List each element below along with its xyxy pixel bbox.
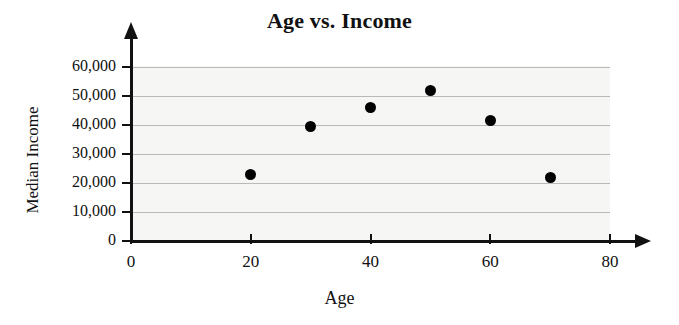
scatter-chart-figure: Age vs. Income Median Income Age 010,000… (0, 0, 679, 325)
x-axis-tick-label: 40 (341, 252, 401, 272)
x-axis-line (131, 240, 637, 243)
chart-title: Age vs. Income (0, 8, 679, 34)
y-axis-tick-label: 0 (18, 231, 116, 249)
x-axis-tick-mark (370, 234, 372, 244)
data-point (485, 115, 496, 126)
data-point (545, 172, 556, 183)
gridline (131, 212, 610, 213)
x-axis-tick-label: 0 (101, 252, 161, 272)
y-axis-tick-label: 60,000 (18, 57, 116, 75)
plot-area (131, 66, 610, 241)
x-axis-tick-label: 80 (580, 252, 640, 272)
gridline (131, 96, 610, 97)
x-axis-tick-label: 60 (460, 252, 520, 272)
y-axis-tick-mark (122, 211, 132, 213)
x-axis-tick-mark (609, 234, 611, 244)
x-axis-tick-label: 20 (221, 252, 281, 272)
y-axis-tick-mark (122, 66, 132, 68)
y-axis-tick-label: 20,000 (18, 173, 116, 191)
gridline (131, 125, 610, 126)
data-point (305, 121, 316, 132)
gridline (131, 154, 610, 155)
y-axis-tick-mark (122, 153, 132, 155)
gridline (131, 183, 610, 184)
y-axis-tick-label: 50,000 (18, 86, 116, 104)
y-axis-tick-label: 10,000 (18, 202, 116, 220)
y-axis-arrow-icon (124, 22, 138, 39)
gridline (131, 67, 610, 68)
x-axis-tick-mark (130, 234, 132, 244)
y-axis-tick-label: 30,000 (18, 144, 116, 162)
x-axis-tick-mark (250, 234, 252, 244)
y-axis-tick-mark (122, 182, 132, 184)
data-point (245, 169, 256, 180)
x-axis-arrow-icon (635, 234, 651, 248)
data-point (425, 85, 436, 96)
y-axis-tick-mark (122, 95, 132, 97)
y-axis-tick-mark (122, 124, 132, 126)
x-axis-tick-mark (489, 234, 491, 244)
y-axis-tick-label: 40,000 (18, 115, 116, 133)
x-axis-title: Age (0, 288, 679, 309)
